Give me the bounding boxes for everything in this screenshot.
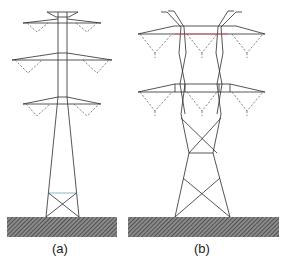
ground-a xyxy=(7,217,117,237)
tower-a-top-cap xyxy=(47,12,78,17)
tower-b-waist-bracing xyxy=(181,118,221,153)
tower-a xyxy=(12,12,112,217)
tower-b-crossarm-2 xyxy=(138,84,265,92)
tower-a-crossarm-1 xyxy=(23,19,101,23)
ground-b xyxy=(128,217,279,237)
tower-b xyxy=(138,11,265,217)
tower-a-crossarm-3 xyxy=(23,97,101,104)
tower-b-right-column xyxy=(213,12,242,217)
tower-a-insulators xyxy=(15,23,109,116)
tower-b-base-bracing xyxy=(175,178,230,217)
tower-b-crossarm-1 xyxy=(138,26,265,34)
transmission-tower-diagram: (a) (b) xyxy=(0,0,291,264)
panel-label-a: (a) xyxy=(52,241,68,256)
tower-a-base-bracing xyxy=(46,193,79,217)
tower-b-insulators xyxy=(140,34,263,116)
tower-a-crossarm-2 xyxy=(12,53,112,60)
tower-b-left-column xyxy=(161,12,189,217)
panel-label-b: (b) xyxy=(194,241,210,256)
